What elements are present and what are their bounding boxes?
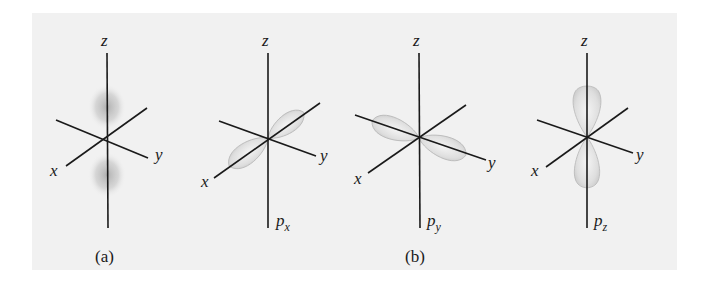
z-axis <box>419 53 420 228</box>
z-axis-label: z <box>100 31 108 50</box>
y-axis-label: y <box>318 146 328 165</box>
x-axis-label: x <box>49 161 58 180</box>
x-axis-label: x <box>530 161 539 180</box>
y-axis-label: y <box>634 145 644 164</box>
s-orbital-diagram: z y x (a) <box>49 31 163 266</box>
pz-orbital-diagram: z y x pz <box>530 31 644 234</box>
y-axis-label: y <box>486 153 496 172</box>
py-orbital-diagram: z y x py (b) <box>353 31 496 266</box>
orbital-figure: z y x (a) z y x px z y x py (b <box>0 0 701 283</box>
px-lobe-front <box>223 129 274 174</box>
pz-orbital-label: pz <box>593 211 608 234</box>
py-lobe-front <box>415 128 470 166</box>
x-axis-label: x <box>353 169 362 188</box>
caption-b: (b) <box>405 247 425 266</box>
caption-a: (a) <box>95 247 114 266</box>
z-axis-label: z <box>261 31 269 50</box>
px-orbital-diagram: z y x px <box>200 31 328 234</box>
px-orbital-label: px <box>275 211 291 234</box>
z-axis-label: z <box>580 31 588 50</box>
x-axis <box>214 103 320 178</box>
z-axis-label: z <box>412 31 420 50</box>
x-axis-label: x <box>200 172 209 191</box>
py-orbital-label: py <box>426 211 442 234</box>
y-axis-label: y <box>153 145 163 164</box>
